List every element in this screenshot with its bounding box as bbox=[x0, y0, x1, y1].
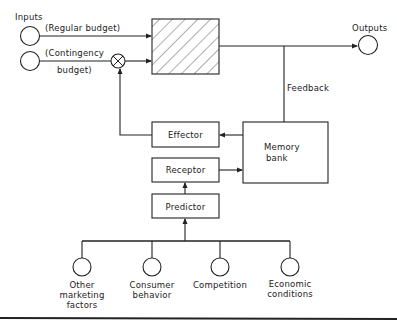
factor-economic-label: Economic conditions bbox=[255, 279, 325, 299]
factor-circle-consumer bbox=[143, 258, 161, 276]
factor-competition-label: Competition bbox=[185, 280, 255, 290]
receptor-label: Receptor bbox=[152, 165, 219, 175]
factor-other-label: Other marketing factors bbox=[52, 280, 112, 310]
effector-to-junction-path bbox=[120, 69, 152, 135]
factor-economic-line1: Economic bbox=[255, 279, 325, 289]
factor-competition-line1: Competition bbox=[185, 280, 255, 290]
factor-consumer-line2: behavior bbox=[122, 290, 182, 300]
factor-consumer-label: Consumer behavior bbox=[122, 280, 182, 300]
bottom-rule bbox=[0, 318, 397, 319]
effector-label: Effector bbox=[152, 130, 219, 140]
predictor-label: Predictor bbox=[152, 202, 219, 212]
factor-economic-line2: conditions bbox=[255, 289, 325, 299]
regular-budget-label: (Regular budget) bbox=[45, 23, 120, 33]
feedback-label: Feedback bbox=[287, 83, 329, 93]
output-circle bbox=[359, 36, 378, 55]
process-block bbox=[152, 19, 219, 74]
memory-bank-label-1: Memory bbox=[264, 142, 300, 152]
input-regular-circle bbox=[21, 27, 40, 46]
factor-circle-other bbox=[73, 258, 91, 276]
inputs-label: Inputs bbox=[15, 12, 43, 22]
input-contingency-circle bbox=[21, 52, 40, 71]
factor-circle-economic bbox=[281, 258, 299, 276]
memory-bank-label-2: bank bbox=[266, 153, 288, 163]
contingency-label-1: (Contingency bbox=[45, 48, 104, 58]
contingency-label-2: budget) bbox=[57, 65, 92, 75]
factor-other-line2: marketing bbox=[52, 290, 112, 300]
factor-other-line1: Other bbox=[52, 280, 112, 290]
outputs-label: Outputs bbox=[352, 23, 387, 33]
summing-junction-icon bbox=[111, 54, 125, 68]
factor-other-line3: factors bbox=[52, 300, 112, 310]
factor-circle-competition bbox=[211, 258, 229, 276]
factor-consumer-line1: Consumer bbox=[122, 280, 182, 290]
